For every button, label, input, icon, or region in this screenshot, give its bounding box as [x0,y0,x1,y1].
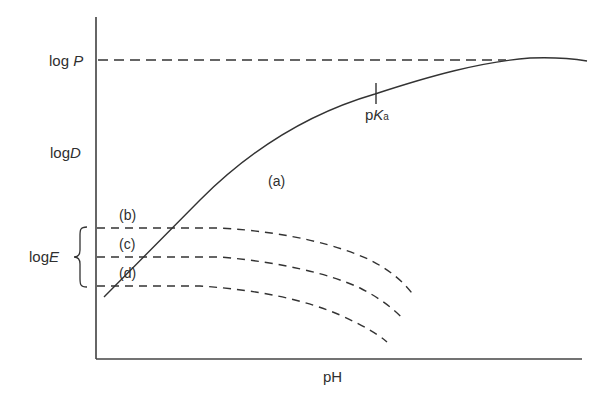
e-var: E [49,248,59,265]
label-a: (a) [268,174,285,188]
label-d: (d) [119,266,136,280]
pka-a: a [383,111,389,122]
pka-k: K [373,106,383,123]
d-var: D [70,144,81,161]
log-text: log [50,144,70,161]
log-text: log [29,248,49,265]
curve-a [104,58,587,297]
p-var: P [73,52,83,69]
label-log-d: logD [50,145,81,160]
log-text: log [49,52,69,69]
curve-c [97,257,403,319]
label-pka: pKa [365,107,389,122]
label-log-e: logE [29,249,59,264]
log-e-brace [74,227,87,287]
label-c: (c) [119,237,135,251]
x-axis-label: pH [323,369,342,384]
label-b: (b) [119,208,136,222]
diagram-canvas [0,0,610,407]
figure: log P logD logE (a) (b) (c) (d) pKa pH [0,0,610,407]
label-log-p: log P [49,53,83,68]
curve-d [97,286,387,342]
